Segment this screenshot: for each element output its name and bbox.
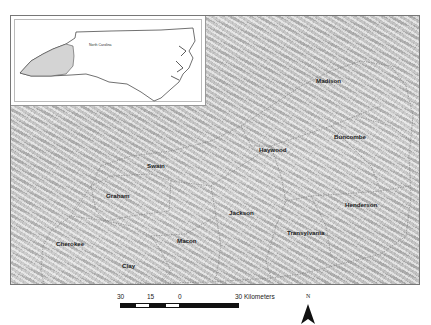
scale-label-15: 15 [147,293,154,300]
county-label-transylvania: Transylvania [287,229,325,236]
county-label-macon: Macon [177,237,197,244]
county-label-madison: Madison [316,77,341,84]
county-label-henderson: Henderson [345,201,377,208]
scale-segment [120,303,135,308]
county-label-jackson: Jackson [229,209,254,216]
scale-label-30-left: 30 [117,293,124,300]
north-label: N [306,293,310,299]
county-label-swain: Swain [147,162,165,169]
scale-label-30-km: 30 Kilometers [235,293,275,300]
scale-label-0: 0 [178,293,182,300]
locator-inset-map: North Carolina [11,16,206,106]
county-label-haywood: Haywood [259,146,287,153]
county-label-cherokee: Cherokee [56,240,84,247]
north-arrow-icon [300,302,320,325]
county-label-clay: Clay [122,262,135,269]
inset-state-label: North Carolina [89,43,112,47]
county-label-graham: Graham [106,192,129,199]
scale-segment [180,303,239,308]
scale-segment [165,303,180,308]
scale-segment [135,303,150,308]
north-arrow: N [300,298,320,324]
north-carolina-outline [11,16,206,106]
county-label-buncombe: Buncombe [334,133,366,140]
scale-segment [150,303,165,308]
